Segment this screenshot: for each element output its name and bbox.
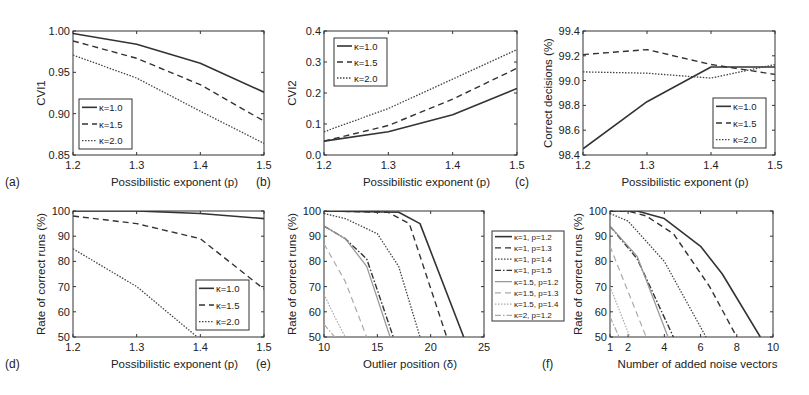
x-tick-label: 1.3 [639,159,654,171]
x-axis-label: Possibilistic exponent (p) [621,176,748,188]
legend-entry-label: κ=1.0 [216,283,240,294]
x-tick-label: 1.4 [445,159,460,171]
legend-entry-label: κ=1.5 [99,119,123,130]
y-tick-label: 0.1 [306,118,321,130]
panel-c-correct-decisions-chart: 98.498.698.899.099.299.41.21.31.41.5Poss… [515,25,783,189]
legend: κ=1.0κ=1.5κ=2.0 [196,280,249,330]
data-line [324,294,345,337]
y-tick-label: 100 [303,205,321,217]
legend-entry-label: κ=1.5, p=1.4 [514,300,559,309]
y-tick-label: 1.00 [49,25,70,37]
legend-entry-label: κ=1.5, p=1.2 [514,278,559,287]
x-axis-label: Number of added noise vectors [618,358,778,370]
x-tick-label: 25 [478,341,490,353]
x-tick-label: 15 [371,341,383,353]
panel-f-correct-runs-vs-noise-chart: 50607080901001246810Number of added nois… [542,205,779,371]
legend-entry-label: κ=1, p=1.5 [514,266,552,275]
x-tick-label: 1.4 [193,159,208,171]
legend: κ=1.0κ=1.5κ=2.0 [79,99,132,149]
legend: κ=1, p=1.2κ=1, p=1.3κ=1, p=1.4κ=1, p=1.5… [492,231,564,321]
panel-a-cvi1-chart: 0.850.900.951.001.21.31.41.5Possibilisti… [5,25,272,189]
data-line [324,324,335,337]
y-tick-label: 0.3 [306,56,321,68]
panel-label: (d) [5,357,20,371]
y-tick-label: 50 [595,331,607,343]
legend-entry-label: κ=1.5 [216,300,240,311]
y-tick-label: 0.95 [49,66,70,78]
y-axis-label: Rate of correct runs (%) [35,213,47,335]
data-line [583,50,775,75]
x-tick-label: 2 [625,341,631,353]
data-line [324,226,390,337]
y-tick-label: 90 [595,230,607,242]
data-line [73,216,264,289]
x-tick-label: 20 [425,341,437,353]
plot-area-frame [324,211,484,337]
data-line [73,34,264,93]
legend-entry-label: κ=2.0 [733,134,757,145]
x-tick-label: 8 [734,341,740,353]
data-line [610,211,737,337]
figure-canvas: 0.850.900.951.001.21.31.41.5Possibilisti… [0,0,809,395]
legend-entry-label: κ=2.0 [99,135,123,146]
y-tick-label: 60 [309,306,321,318]
y-tick-label: 80 [309,255,321,267]
x-tick-label: 1.5 [256,341,271,353]
y-axis-label: Correct decisions (%) [542,38,554,148]
y-tick-label: 90 [58,230,70,242]
legend-entry-label: κ=1, p=1.2 [514,233,552,242]
y-tick-label: 99.4 [559,25,580,37]
y-tick-label: 90 [309,230,321,242]
x-tick-label: 1.5 [256,159,271,171]
y-tick-label: 70 [595,281,607,293]
legend-entry-label: κ=1.5 [733,118,757,129]
y-tick-label: 98.6 [559,124,580,136]
x-tick-label: 1.2 [316,159,331,171]
x-tick-label: 1.4 [193,341,208,353]
y-tick-label: 80 [58,255,70,267]
x-tick-label: 4 [661,341,667,353]
x-tick-label: 10 [767,341,779,353]
x-tick-label: 1.2 [65,341,80,353]
legend-entry-label: κ=1, p=1.3 [514,244,552,253]
x-axis-label: Outlier position (δ) [363,358,457,370]
data-line [610,317,619,337]
panel-label: (c) [515,175,529,189]
data-line [73,249,200,340]
legend-entry-label: κ=1.0 [354,41,378,52]
y-tick-label: 100 [52,205,70,217]
y-tick-label: 0.2 [306,87,321,99]
legend: κ=1.0κ=1.5κ=2.0 [713,98,766,148]
x-tick-label: 1.5 [767,159,782,171]
panel-label: (e) [256,357,271,371]
y-tick-label: 98.8 [559,99,580,111]
y-axis-label: Rate of correct runs (%) [572,213,584,335]
legend-entry-label: κ=1.0 [99,102,123,113]
y-axis-label: Rate of correct runs (%) [286,213,298,335]
x-tick-label: 1.2 [65,159,80,171]
legend: κ=1.0κ=1.5κ=2.0 [334,38,387,86]
y-tick-label: 99.2 [559,50,580,62]
y-tick-label: 100 [589,205,607,217]
data-line [73,211,264,219]
series-group [610,211,760,337]
y-tick-label: 0.90 [49,108,70,120]
legend-entry-label: κ=2.0 [216,316,240,327]
x-axis-label: Possibilistic exponent (p) [111,176,238,188]
y-tick-label: 70 [58,281,70,293]
x-tick-label: 6 [697,341,703,353]
x-tick-label: 1 [607,341,613,353]
y-tick-label: 80 [595,255,607,267]
panel-e-correct-runs-vs-outlier-chart: 506070809010010152025Outlier position (δ… [256,205,564,371]
y-axis-label: CVI1 [35,80,47,106]
panel-label: (b) [256,175,271,189]
x-tick-label: 1.3 [381,159,396,171]
panel-label: (a) [5,175,20,189]
legend-entry-label: κ=1.0 [733,101,757,112]
y-tick-label: 70 [309,281,321,293]
x-tick-label: 1.3 [129,341,144,353]
x-axis-label: Possibilistic exponent (p) [111,358,238,370]
data-line [324,211,447,337]
data-line [324,211,464,337]
x-tick-label: 1.4 [703,159,718,171]
